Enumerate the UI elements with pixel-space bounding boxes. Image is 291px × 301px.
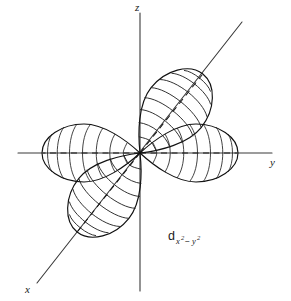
lobe-negative-x-upper — [115, 54, 228, 173]
x-axis-label: x — [24, 283, 30, 295]
lobe-negative-x-outline — [115, 54, 228, 173]
z-axis-label: z — [134, 1, 140, 13]
orbital-label-base: d — [168, 229, 175, 243]
orbital-label-sub-y-exponent: 2 — [197, 234, 201, 241]
orbital-svg-canvas: z y x d x 2 − y 2 — [0, 0, 291, 301]
lobe-rib — [144, 92, 197, 136]
y-axis-label: y — [269, 156, 275, 168]
orbital-label: d x 2 − y 2 — [168, 229, 201, 246]
orbital-label-sub-x: x — [175, 236, 180, 246]
orbital-label-sub-minus: − — [185, 236, 190, 246]
orbital-figure: z y x d x 2 − y 2 — [0, 0, 291, 301]
orbital-label-sub-y: y — [191, 236, 196, 246]
lobe-rib — [151, 82, 206, 128]
lobe-negative-x-centerline — [140, 75, 202, 153]
